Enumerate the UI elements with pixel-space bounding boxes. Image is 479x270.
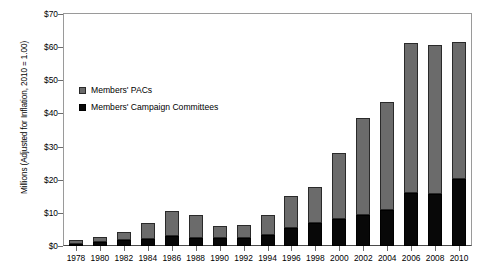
y-tick-label: $60: [24, 42, 58, 52]
bar-group: [165, 211, 179, 246]
y-tick-mark: [58, 213, 63, 214]
bar-segment-campaign-committees: [380, 210, 394, 246]
x-tick-mark: [220, 246, 221, 251]
bar-segment-campaign-committees: [332, 219, 346, 246]
y-tick-mark: [58, 113, 63, 114]
legend-item-pacs: Members' PACs: [79, 83, 218, 97]
x-tick-mark: [435, 246, 436, 251]
x-tick-mark: [172, 246, 173, 251]
y-tick-mark: [58, 246, 63, 247]
x-tick-mark: [459, 246, 460, 251]
bar-segment-pacs: [117, 232, 131, 240]
bar-segment-campaign-committees: [404, 193, 418, 246]
bar-group: [380, 102, 394, 246]
x-tick-mark: [76, 246, 77, 251]
x-tick-mark: [387, 246, 388, 251]
y-tick-label: $50: [24, 75, 58, 85]
bar-segment-campaign-committees: [213, 238, 227, 246]
bar-segment-campaign-committees: [284, 228, 298, 246]
bar-group: [213, 226, 227, 246]
bar-group: [308, 187, 322, 246]
black-square-icon: [79, 104, 86, 111]
bars-layer: [64, 14, 471, 246]
legend-label-campaign-committees: Members' Campaign Committees: [91, 102, 218, 112]
bar-group: [261, 215, 275, 246]
bar-segment-campaign-committees: [189, 238, 203, 246]
y-tick-mark: [58, 14, 63, 15]
bar-segment-pacs: [332, 153, 346, 219]
x-tick-mark: [363, 246, 364, 251]
x-tick-mark: [291, 246, 292, 251]
y-tick-label: $40: [24, 108, 58, 118]
bar-segment-campaign-committees: [237, 238, 251, 246]
bar-segment-campaign-committees: [452, 179, 466, 246]
y-tick-mark: [58, 147, 63, 148]
bar-segment-pacs: [404, 43, 418, 193]
x-tick-label: 2010: [439, 253, 479, 263]
bar-segment-pacs: [141, 223, 155, 239]
bar-group: [93, 237, 107, 246]
gray-square-icon: [79, 87, 86, 94]
x-tick-mark: [339, 246, 340, 251]
x-tick-mark: [100, 246, 101, 251]
bar-group: [404, 43, 418, 246]
bar-segment-campaign-committees: [141, 239, 155, 246]
bar-group: [332, 153, 346, 246]
y-tick-label: $0: [24, 241, 58, 251]
bar-segment-pacs: [284, 196, 298, 228]
bar-group: [117, 232, 131, 246]
x-tick-mark: [148, 246, 149, 251]
bar-segment-campaign-committees: [356, 215, 370, 246]
bar-segment-campaign-committees: [261, 235, 275, 246]
x-tick-mark: [124, 246, 125, 251]
bar-group: [356, 118, 370, 246]
bar-segment-campaign-committees: [308, 223, 322, 246]
x-tick-mark: [411, 246, 412, 251]
bar-segment-pacs: [261, 215, 275, 235]
y-tick-mark: [58, 180, 63, 181]
y-tick-mark: [58, 47, 63, 48]
bar-segment-pacs: [165, 211, 179, 237]
bar-group: [284, 196, 298, 246]
bar-group: [452, 42, 466, 246]
legend-item-campaign-committees: Members' Campaign Committees: [79, 100, 218, 114]
x-tick-mark: [244, 246, 245, 251]
bar-segment-campaign-committees: [428, 194, 442, 246]
bar-group: [428, 45, 442, 246]
y-tick-label: $70: [24, 9, 58, 19]
x-tick-mark: [268, 246, 269, 251]
bar-segment-pacs: [428, 45, 442, 194]
y-tick-label: $30: [24, 142, 58, 152]
bar-segment-campaign-committees: [165, 236, 179, 246]
bar-group: [237, 225, 251, 246]
y-axis-title: Millions (Adjusted for Inflation, 2010 =…: [20, 0, 29, 238]
x-tick-mark: [315, 246, 316, 251]
bar-segment-pacs: [452, 42, 466, 179]
bar-segment-pacs: [308, 187, 322, 223]
y-tick-label: $10: [24, 208, 58, 218]
bar-segment-pacs: [189, 215, 203, 238]
x-tick-mark: [196, 246, 197, 251]
legend-label-pacs: Members' PACs: [91, 85, 152, 95]
chart-legend: Members' PACs Members' Campaign Committe…: [79, 83, 218, 117]
bar-segment-pacs: [380, 102, 394, 210]
y-tick-label: $20: [24, 175, 58, 185]
stacked-bar-chart: Millions (Adjusted for Inflation, 2010 =…: [0, 0, 479, 270]
bar-segment-pacs: [213, 226, 227, 238]
bar-segment-pacs: [356, 118, 370, 215]
bar-group: [189, 215, 203, 246]
y-tick-mark: [58, 80, 63, 81]
bar-group: [141, 223, 155, 246]
bar-segment-pacs: [237, 225, 251, 238]
